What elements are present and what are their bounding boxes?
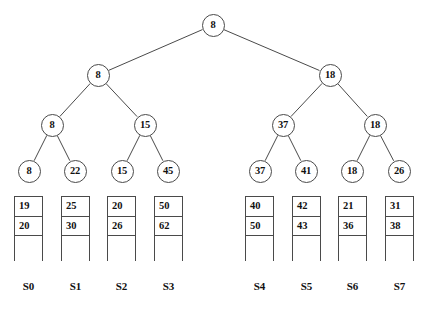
bucket-empty-slot bbox=[61, 236, 90, 261]
bucket-cell: 40 bbox=[245, 196, 274, 216]
tree-node-n6[interactable]: 18 bbox=[364, 114, 387, 137]
tree-edge bbox=[288, 135, 301, 160]
tree-node-n10[interactable]: 45 bbox=[157, 160, 180, 183]
tree-edge bbox=[291, 83, 322, 116]
bucket-cell: 62 bbox=[154, 216, 183, 236]
tree-edge bbox=[57, 135, 70, 160]
bucket-cell: 25 bbox=[61, 196, 90, 216]
btree-index-diagram: 88188153718822154537411826 1920S02530S12… bbox=[0, 0, 429, 310]
bucket-s0[interactable]: 1920 bbox=[14, 196, 43, 261]
bucket-cell: 21 bbox=[338, 196, 367, 216]
tree-node-n5[interactable]: 37 bbox=[272, 114, 295, 137]
bucket-cell: 19 bbox=[14, 196, 43, 216]
bucket-empty-slot bbox=[245, 236, 274, 261]
bucket-s4[interactable]: 4050 bbox=[245, 196, 274, 261]
bucket-cell: 20 bbox=[14, 216, 43, 236]
tree-edge bbox=[357, 135, 370, 160]
bucket-s3[interactable]: 5062 bbox=[154, 196, 183, 261]
tree-edge bbox=[127, 135, 140, 160]
bucket-label-s5: S5 bbox=[287, 281, 327, 292]
tree-edge bbox=[265, 135, 278, 160]
tree-edge bbox=[106, 83, 137, 116]
bucket-cell: 50 bbox=[245, 216, 274, 236]
bucket-label-s3: S3 bbox=[149, 281, 189, 292]
tree-edge-layer bbox=[0, 0, 429, 310]
tree-edge bbox=[109, 30, 203, 71]
bucket-s6[interactable]: 2136 bbox=[338, 196, 367, 261]
tree-node-n0[interactable]: 8 bbox=[202, 14, 225, 37]
tree-node-n2[interactable]: 18 bbox=[319, 64, 342, 87]
tree-node-n1[interactable]: 8 bbox=[87, 64, 110, 87]
tree-node-n3[interactable]: 8 bbox=[41, 114, 64, 137]
bucket-s2[interactable]: 2026 bbox=[107, 196, 136, 261]
bucket-cell: 30 bbox=[61, 216, 90, 236]
tree-node-n7[interactable]: 8 bbox=[18, 160, 41, 183]
bucket-label-s1: S1 bbox=[56, 281, 96, 292]
tree-node-n4[interactable]: 15 bbox=[134, 114, 157, 137]
bucket-empty-slot bbox=[14, 236, 43, 261]
bucket-cell: 50 bbox=[154, 196, 183, 216]
bucket-cell: 42 bbox=[292, 196, 321, 216]
tree-node-n9[interactable]: 15 bbox=[111, 160, 134, 183]
bucket-cell: 43 bbox=[292, 216, 321, 236]
tree-node-n14[interactable]: 26 bbox=[388, 160, 411, 183]
bucket-s5[interactable]: 4243 bbox=[292, 196, 321, 261]
bucket-empty-slot bbox=[154, 236, 183, 261]
tree-node-n11[interactable]: 37 bbox=[249, 160, 272, 183]
tree-edge bbox=[34, 135, 47, 160]
tree-edge bbox=[60, 83, 90, 116]
bucket-empty-slot bbox=[338, 236, 367, 261]
tree-edge bbox=[224, 30, 320, 71]
bucket-label-s6: S6 bbox=[333, 281, 373, 292]
bucket-s1[interactable]: 2530 bbox=[61, 196, 90, 261]
bucket-s7[interactable]: 3138 bbox=[385, 196, 414, 261]
tree-node-n13[interactable]: 18 bbox=[341, 160, 364, 183]
bucket-label-s7: S7 bbox=[380, 281, 420, 292]
bucket-empty-slot bbox=[385, 236, 414, 261]
tree-node-n8[interactable]: 22 bbox=[64, 160, 87, 183]
bucket-cell: 31 bbox=[385, 196, 414, 216]
tree-edge bbox=[338, 84, 368, 117]
bucket-cell: 38 bbox=[385, 216, 414, 236]
bucket-cell: 26 bbox=[107, 216, 136, 236]
bucket-cell: 20 bbox=[107, 196, 136, 216]
bucket-empty-slot bbox=[107, 236, 136, 261]
bucket-label-s0: S0 bbox=[9, 281, 49, 292]
bucket-empty-slot bbox=[292, 236, 321, 261]
tree-node-n12[interactable]: 41 bbox=[295, 160, 318, 183]
bucket-label-s4: S4 bbox=[240, 281, 280, 292]
tree-edge bbox=[380, 135, 393, 161]
bucket-label-s2: S2 bbox=[102, 281, 142, 292]
tree-edge bbox=[150, 135, 163, 160]
bucket-cell: 36 bbox=[338, 216, 367, 236]
